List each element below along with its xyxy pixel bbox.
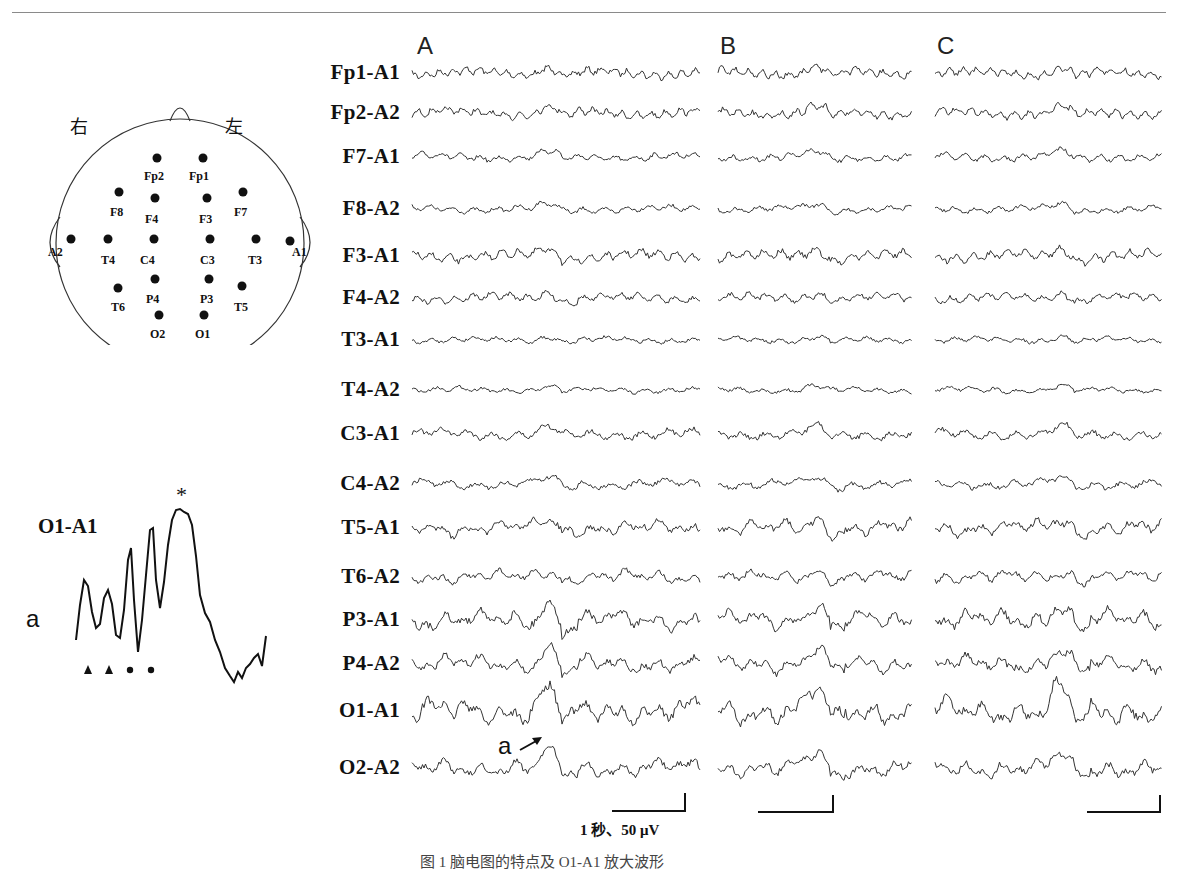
figure-caption: 图 1 脑电图的特点及 O1-A1 放大波形 (420, 850, 664, 871)
scale-bar-label: 1 秒、50 μV (580, 818, 659, 839)
